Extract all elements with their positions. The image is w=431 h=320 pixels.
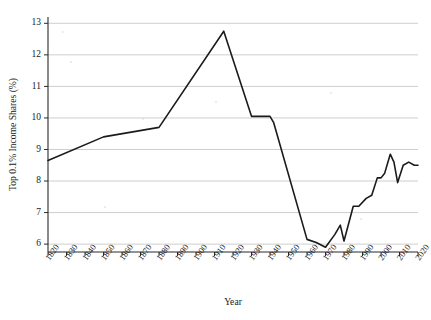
- x-axis-title: Year: [224, 296, 242, 307]
- axis-frame: [48, 17, 418, 252]
- y-tick-label: 9: [36, 144, 41, 154]
- y-tick-label: 8: [36, 175, 41, 185]
- series-group: [48, 31, 418, 247]
- scan-speck: [330, 92, 332, 94]
- scan-speck: [142, 118, 144, 120]
- y-axis-title: Top 0.1% Income Shares (%): [7, 78, 19, 191]
- y-tick-label: 11: [32, 81, 41, 91]
- y-tick-label: 6: [36, 238, 41, 248]
- ticks-group: [44, 23, 418, 256]
- y-tick-labels-group: 678910111213: [32, 17, 42, 248]
- gridlines-group: [48, 23, 418, 244]
- scan-speck: [62, 31, 64, 33]
- y-tick-label: 13: [32, 17, 42, 27]
- y-tick-label: 10: [32, 112, 42, 122]
- series-line-top-0-1-income-shares: [48, 31, 418, 247]
- scan-speck: [360, 218, 362, 220]
- y-tick-label: 12: [32, 49, 42, 59]
- scan-speck: [104, 206, 106, 208]
- x-tick-label: 2020: [413, 242, 431, 262]
- scan-speck: [70, 61, 72, 63]
- income-shares-line-chart: 678910111213 182018301840185018601870188…: [0, 0, 431, 320]
- y-tick-label: 7: [36, 207, 41, 217]
- chart-figure: 678910111213 182018301840185018601870188…: [0, 0, 431, 320]
- scan-speck: [215, 101, 217, 103]
